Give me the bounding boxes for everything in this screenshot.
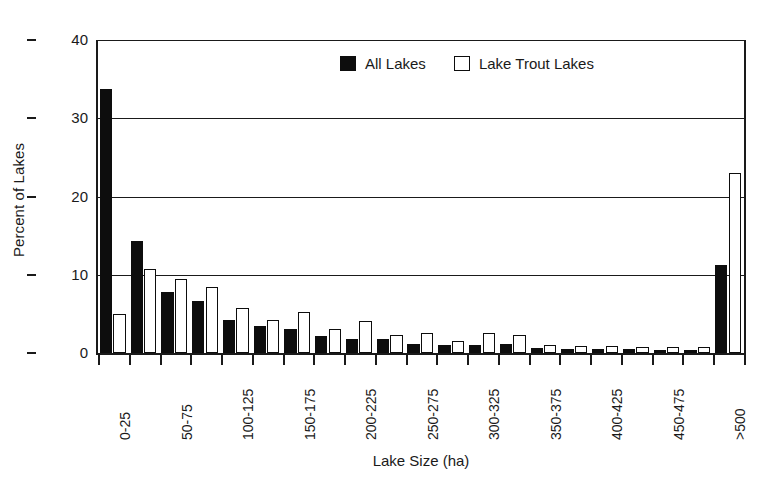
x-tick-mark: [406, 355, 408, 365]
bar-all-lakes: [254, 326, 266, 353]
bar-lake-trout-lakes: [267, 320, 279, 353]
x-axis-tick-marks: [96, 355, 746, 367]
y-tick-label-30: 30: [46, 110, 88, 125]
bar-lake-trout-lakes: [513, 335, 525, 353]
bar-group: [498, 40, 529, 353]
bar-all-lakes: [531, 348, 543, 353]
bar-group: [467, 40, 498, 353]
bar-group: [221, 40, 252, 353]
x-tick-mark: [190, 355, 192, 365]
x-tick-mark: [283, 355, 285, 365]
x-tick-mark: [529, 355, 531, 365]
plot-right-border: [744, 40, 746, 355]
x-tick-mark: [313, 355, 315, 365]
x-tick-label: >500: [733, 408, 747, 440]
bar-group: [652, 40, 683, 353]
x-tick-label: 50-75: [180, 404, 194, 440]
x-tick-label: 300-325: [487, 389, 501, 440]
bar-group: [375, 40, 406, 353]
bar-group: [129, 40, 160, 353]
bar-lake-trout-lakes: [667, 347, 679, 353]
bar-lake-trout-lakes: [113, 314, 125, 353]
y-tick-label-20: 20: [46, 189, 88, 204]
y-tick-label-40: 40: [46, 32, 88, 47]
x-tick-label: 350-375: [549, 389, 563, 440]
bar-all-lakes: [500, 344, 512, 353]
bar-group: [436, 40, 467, 353]
bar-group: [313, 40, 344, 353]
bar-all-lakes: [469, 345, 481, 353]
legend-label-lake-trout-lakes: Lake Trout Lakes: [479, 56, 594, 71]
bar-group: [98, 40, 129, 353]
bar-all-lakes: [315, 336, 327, 353]
bar-lake-trout-lakes: [544, 345, 556, 353]
y-tick-mark-40: [27, 39, 36, 41]
bar-lake-trout-lakes: [206, 287, 218, 354]
chart-legend: All Lakes Lake Trout Lakes: [340, 52, 594, 74]
bar-all-lakes: [654, 350, 666, 353]
bar-all-lakes: [377, 339, 389, 353]
bar-lake-trout-lakes: [575, 346, 587, 353]
x-tick-mark: [621, 355, 623, 365]
y-tick-label-0: 0: [46, 345, 88, 360]
y-tick-mark-0: [27, 352, 36, 354]
x-tick-mark: [129, 355, 131, 365]
x-tick-label: 150-175: [303, 389, 317, 440]
y-axis-tick-labels: 010203040: [36, 40, 88, 355]
x-tick-mark: [160, 355, 162, 365]
bar-lake-trout-lakes: [236, 308, 248, 353]
x-axis-tick-labels: 0-2550-75100-125150-175200-225250-275300…: [96, 368, 746, 442]
x-tick-mark: [682, 355, 684, 365]
x-tick-mark: [344, 355, 346, 365]
x-tick-mark: [221, 355, 223, 365]
bar-all-lakes: [284, 329, 296, 353]
x-tick-label: 400-425: [610, 389, 624, 440]
x-tick-mark: [559, 355, 561, 365]
bar-all-lakes: [438, 345, 450, 353]
x-tick-mark: [252, 355, 254, 365]
bar-group: [406, 40, 437, 353]
bar-all-lakes: [561, 349, 573, 353]
bar-group: [590, 40, 621, 353]
legend-item-lake-trout-lakes: Lake Trout Lakes: [454, 56, 594, 71]
bar-all-lakes: [684, 350, 696, 353]
bar-group: [190, 40, 221, 353]
y-tick-mark-20: [27, 196, 36, 198]
bar-lake-trout-lakes: [729, 173, 741, 353]
x-tick-mark: [436, 355, 438, 365]
bar-all-lakes: [223, 320, 235, 353]
bar-chart-figure: Percent of Lakes 010203040 0-2550-75100-…: [0, 0, 766, 490]
bar-group: [559, 40, 590, 353]
bar-group: [252, 40, 283, 353]
bar-lake-trout-lakes: [175, 279, 187, 353]
bar-lake-trout-lakes: [636, 347, 648, 353]
bar-all-lakes: [161, 292, 173, 353]
x-tick-mark: [467, 355, 469, 365]
bar-series-container: [98, 40, 744, 353]
bar-group: [283, 40, 314, 353]
x-tick-mark: [498, 355, 500, 365]
bar-all-lakes: [623, 349, 635, 353]
x-tick-label: 100-125: [241, 389, 255, 440]
bar-lake-trout-lakes: [606, 346, 618, 353]
bar-lake-trout-lakes: [698, 347, 710, 353]
bar-lake-trout-lakes: [483, 333, 495, 353]
x-tick-mark: [375, 355, 377, 365]
bar-lake-trout-lakes: [298, 312, 310, 353]
x-tick-label: 200-225: [364, 389, 378, 440]
bar-all-lakes: [592, 349, 604, 353]
bar-all-lakes: [715, 265, 727, 353]
x-tick-label: 450-475: [672, 389, 686, 440]
y-tick-mark-30: [27, 117, 36, 119]
legend-swatch-lake-trout-lakes: [454, 56, 470, 71]
bar-lake-trout-lakes: [421, 333, 433, 353]
legend-label-all-lakes: All Lakes: [365, 56, 426, 71]
x-tick-mark: [98, 355, 100, 365]
bar-lake-trout-lakes: [329, 329, 341, 353]
bar-group: [344, 40, 375, 353]
x-tick-mark: [652, 355, 654, 365]
x-tick-label: 250-275: [426, 389, 440, 440]
plot-area: 010203040: [96, 40, 746, 355]
legend-swatch-all-lakes: [340, 56, 356, 71]
bar-lake-trout-lakes: [390, 335, 402, 353]
